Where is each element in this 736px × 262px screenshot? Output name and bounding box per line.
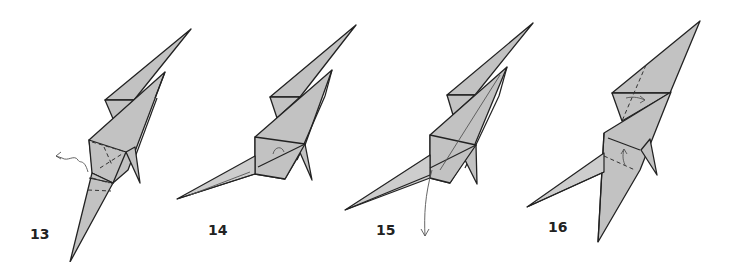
step-label-14: 14: [208, 222, 227, 238]
step-label-15: 15: [376, 222, 395, 238]
step-label-13: 13: [30, 226, 49, 242]
diagram-canvas: [0, 0, 736, 262]
step-13-figure: [56, 29, 191, 262]
step-15-figure: [345, 23, 533, 236]
origami-diagram: 13 14 15 16: [0, 0, 736, 262]
step-14-figure: [177, 25, 356, 199]
step-16-figure: [527, 21, 700, 242]
step-label-16: 16: [548, 219, 567, 235]
